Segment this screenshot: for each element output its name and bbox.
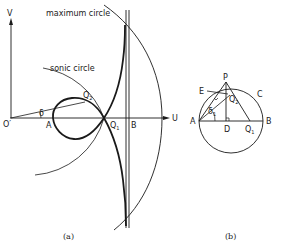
shock-polar-upper: [104, 25, 125, 118]
b-point-e-label: E: [199, 87, 204, 96]
sonic-circle-label: sonic circle: [50, 64, 95, 73]
u-axis-arrow-icon: [163, 116, 170, 120]
b-delta1-label: δ1: [208, 107, 216, 117]
b-point-c-label: C: [257, 90, 263, 99]
shock-polar-lower: [104, 118, 126, 226]
figure-a-labels: V U O′ A δ Q1 B Q2 sonic circle maximum …: [3, 9, 178, 241]
point-b-label: B: [131, 121, 137, 130]
delta-label: δ: [39, 109, 44, 118]
b-point-p-label: P: [223, 73, 228, 82]
point-a-label: A: [46, 121, 52, 130]
figure-b-labels: A B C D E P Q1 Q2 δ1 (b): [190, 73, 272, 241]
u-axis-label: U: [172, 114, 178, 123]
o-q2-line: [11, 102, 85, 118]
maximum-circle-label: maximum circle: [46, 9, 110, 18]
origin-label: O′: [3, 120, 11, 129]
v-axis-label: V: [7, 9, 13, 18]
v-axis-arrow-icon: [9, 18, 13, 25]
right-angle-e: [214, 98, 218, 100]
caption-a: (a): [63, 232, 74, 241]
shock-polar-loop: [53, 98, 104, 139]
b-point-b-label: B: [266, 117, 272, 126]
point-q1-label: Q1: [110, 121, 119, 131]
figure-b: [199, 82, 263, 153]
b-point-d-label: D: [224, 125, 230, 134]
b-point-q2-label: Q2: [229, 95, 238, 105]
b-point-a-label: A: [190, 117, 196, 126]
b-point-q1-label: Q1: [245, 125, 254, 135]
figure-a: [9, 5, 170, 230]
maximum-circle: [104, 5, 162, 230]
point-q2-label: Q2: [83, 91, 92, 101]
diagram-canvas: V U O′ A δ Q1 B Q2 sonic circle maximum …: [0, 0, 282, 246]
caption-b: (b): [225, 232, 236, 241]
